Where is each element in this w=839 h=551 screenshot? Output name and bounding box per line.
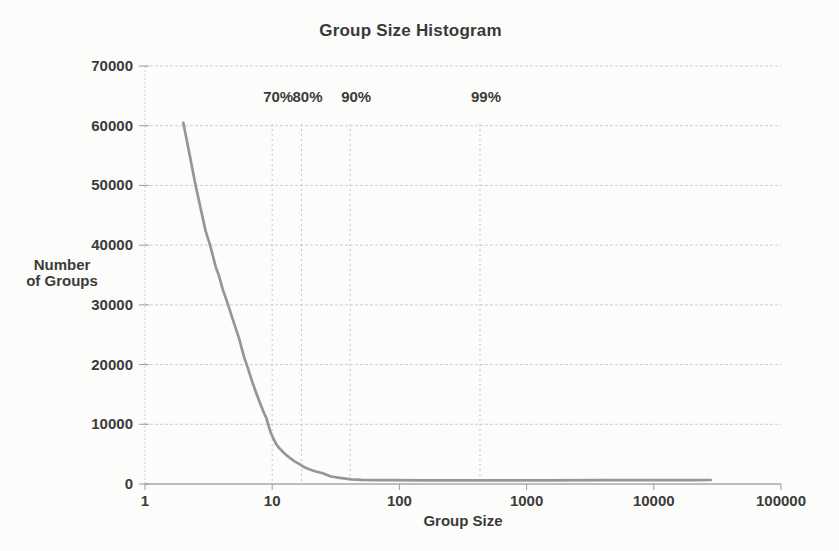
percentile-label: 99% bbox=[471, 88, 501, 105]
percentile-label: 80% bbox=[292, 88, 322, 105]
y-tick-label: 0 bbox=[125, 475, 133, 492]
y-tick-label: 40000 bbox=[91, 236, 133, 253]
x-tick-label: 1 bbox=[141, 492, 149, 509]
percentile-label: 70% bbox=[263, 88, 293, 105]
y-tick-label: 70000 bbox=[91, 57, 133, 74]
x-tick-label: 1000 bbox=[510, 492, 543, 509]
label-layer: 70%80%90%99%0100002000030000400005000060… bbox=[91, 57, 806, 509]
plot-area: 70%80%90%99%0100002000030000400005000060… bbox=[0, 0, 839, 551]
x-tick-label: 100 bbox=[387, 492, 412, 509]
y-tick-label: 50000 bbox=[91, 176, 133, 193]
percentile-layer bbox=[272, 124, 480, 484]
scanned-page: Group Size Histogram Number of Groups Gr… bbox=[0, 0, 839, 551]
x-tick-label: 100000 bbox=[756, 492, 806, 509]
x-tick-label: 10000 bbox=[633, 492, 675, 509]
axis-layer bbox=[139, 66, 781, 490]
histogram-curve bbox=[183, 123, 710, 481]
x-tick-label: 10 bbox=[264, 492, 281, 509]
grid-layer bbox=[145, 66, 781, 424]
series-layer bbox=[183, 123, 710, 481]
percentile-label: 90% bbox=[341, 88, 371, 105]
y-tick-label: 10000 bbox=[91, 415, 133, 432]
y-tick-label: 30000 bbox=[91, 296, 133, 313]
y-tick-label: 20000 bbox=[91, 356, 133, 373]
y-tick-label: 60000 bbox=[91, 117, 133, 134]
